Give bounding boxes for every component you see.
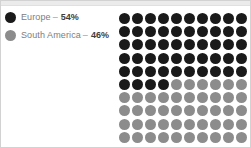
waffle-cell <box>158 79 169 90</box>
waffle-cell <box>236 26 247 37</box>
card-top-strip <box>1 1 250 6</box>
waffle-cell <box>119 66 130 77</box>
waffle-cell <box>236 39 247 50</box>
waffle-cell <box>158 66 169 77</box>
waffle-cell <box>184 13 195 24</box>
waffle-cell <box>236 66 247 77</box>
waffle-cell <box>119 119 130 130</box>
waffle-cell <box>119 105 130 116</box>
waffle-cell <box>236 119 247 130</box>
waffle-cell <box>210 13 221 24</box>
waffle-cell <box>171 79 182 90</box>
waffle-cell <box>132 92 143 103</box>
waffle-cell <box>236 79 247 90</box>
waffle-cell <box>119 26 130 37</box>
waffle-cell <box>184 119 195 130</box>
waffle-cell <box>197 79 208 90</box>
waffle-cell <box>145 92 156 103</box>
waffle-cell <box>210 79 221 90</box>
waffle-cell <box>145 132 156 143</box>
waffle-cell <box>158 39 169 50</box>
waffle-cell <box>171 26 182 37</box>
waffle-cell <box>171 66 182 77</box>
waffle-cell <box>145 119 156 130</box>
waffle-cell <box>236 105 247 116</box>
waffle-cell <box>171 105 182 116</box>
waffle-cell <box>197 66 208 77</box>
waffle-cell <box>197 53 208 64</box>
legend-swatch-icon-south-america <box>5 30 16 41</box>
waffle-cell <box>210 53 221 64</box>
waffle-cell <box>145 66 156 77</box>
waffle-cell <box>119 79 130 90</box>
waffle-cell <box>197 105 208 116</box>
waffle-cell <box>145 53 156 64</box>
waffle-cell <box>145 39 156 50</box>
waffle-cell <box>184 26 195 37</box>
waffle-cell <box>210 92 221 103</box>
waffle-cell <box>210 119 221 130</box>
waffle-cell <box>184 105 195 116</box>
chart-legend: Europe – 54% South America – 46% <box>5 9 117 45</box>
waffle-cell <box>223 26 234 37</box>
waffle-cell <box>197 119 208 130</box>
legend-value-europe: 54% <box>61 12 79 22</box>
waffle-cell <box>236 132 247 143</box>
waffle-cell <box>236 13 247 24</box>
waffle-cell <box>132 26 143 37</box>
waffle-cell <box>158 26 169 37</box>
waffle-grid <box>119 13 249 145</box>
legend-separator-europe: – <box>53 12 58 22</box>
waffle-cell <box>184 79 195 90</box>
waffle-cell <box>132 105 143 116</box>
waffle-cell <box>223 79 234 90</box>
waffle-cell <box>145 79 156 90</box>
waffle-cell <box>171 39 182 50</box>
waffle-cell <box>184 53 195 64</box>
waffle-cell <box>210 66 221 77</box>
legend-separator-south-america: – <box>83 30 88 40</box>
waffle-cell <box>119 53 130 64</box>
waffle-cell <box>145 13 156 24</box>
legend-label-europe: Europe <box>21 12 51 22</box>
waffle-cell <box>132 39 143 50</box>
waffle-cell <box>119 92 130 103</box>
waffle-cell <box>158 105 169 116</box>
waffle-cell <box>223 39 234 50</box>
waffle-cell <box>210 39 221 50</box>
waffle-cell <box>171 119 182 130</box>
waffle-cell <box>184 66 195 77</box>
waffle-cell <box>223 132 234 143</box>
waffle-cell <box>223 66 234 77</box>
waffle-cell <box>132 132 143 143</box>
legend-value-south-america: 46% <box>91 30 109 40</box>
waffle-cell <box>197 132 208 143</box>
waffle-cell <box>210 26 221 37</box>
waffle-cell <box>158 13 169 24</box>
waffle-cell <box>223 119 234 130</box>
waffle-cell <box>171 53 182 64</box>
waffle-cell <box>119 132 130 143</box>
waffle-cell <box>132 13 143 24</box>
waffle-cell <box>132 79 143 90</box>
waffle-cell <box>210 105 221 116</box>
waffle-cell <box>158 119 169 130</box>
waffle-cell <box>132 119 143 130</box>
waffle-cell <box>184 92 195 103</box>
waffle-cell <box>197 13 208 24</box>
waffle-cell <box>197 92 208 103</box>
waffle-cell <box>158 53 169 64</box>
legend-item-south-america[interactable]: South America – 46% <box>5 27 117 43</box>
waffle-cell <box>171 132 182 143</box>
waffle-cell <box>132 66 143 77</box>
waffle-cell <box>184 39 195 50</box>
waffle-cell <box>223 53 234 64</box>
waffle-cell <box>223 105 234 116</box>
waffle-cell <box>145 26 156 37</box>
waffle-cell <box>197 39 208 50</box>
waffle-cell <box>236 53 247 64</box>
legend-item-europe[interactable]: Europe – 54% <box>5 9 117 25</box>
waffle-chart-card: Europe – 54% South America – 46% <box>0 0 251 148</box>
waffle-cell <box>171 13 182 24</box>
waffle-cell <box>119 39 130 50</box>
